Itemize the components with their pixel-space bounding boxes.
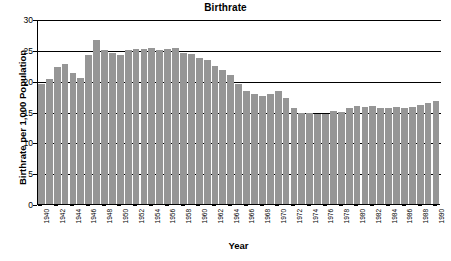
x-tick-label-1966: 1966: [248, 209, 255, 223]
bar: [70, 73, 77, 204]
birthrate-bar-chart: Birthrate 051015202530 Birthrate per 1,0…: [0, 0, 451, 261]
x-tick-label-1944: 1944: [75, 209, 82, 223]
x-tick-label-1978: 1978: [343, 209, 350, 223]
bar: [62, 64, 69, 204]
x-tick-mark-1956: [165, 205, 169, 206]
x-tick-label-1962: 1962: [217, 209, 224, 223]
bar: [54, 67, 61, 204]
x-tick-label-1990: 1990: [438, 209, 445, 223]
bar: [204, 60, 211, 204]
bar: [393, 107, 400, 204]
bar: [227, 75, 234, 205]
bar: [38, 84, 45, 204]
x-tick-mark-1970: [275, 205, 279, 206]
bar: [117, 55, 124, 204]
x-tick-mark-1944: [70, 205, 74, 206]
x-tick-mark-1990: [433, 205, 437, 206]
x-tick-label-1954: 1954: [154, 209, 161, 223]
bar: [346, 108, 353, 204]
bar: [401, 108, 408, 204]
bar: [259, 96, 266, 204]
bar: [172, 48, 179, 204]
x-axis-title: Year: [37, 240, 440, 251]
x-tick-mark-1962: [212, 205, 216, 206]
x-tick-mark-1950: [117, 205, 121, 206]
bar: [196, 58, 203, 204]
bar: [125, 50, 132, 204]
bar: [101, 50, 108, 204]
x-tick-mark-1980: [354, 205, 358, 206]
x-tick-mark-1988: [418, 205, 422, 206]
x-tick-mark-1960: [196, 205, 200, 206]
x-tick-label-1948: 1948: [106, 209, 113, 223]
x-tick-label-1984: 1984: [391, 209, 398, 223]
bar: [235, 84, 242, 204]
x-tick-mark-1948: [102, 205, 106, 206]
x-tick-mark-1940: [38, 205, 42, 206]
bar: [306, 113, 313, 204]
bar: [164, 49, 171, 204]
x-tick-mark-1976: [323, 205, 327, 206]
bar: [93, 40, 100, 204]
x-tick-label-1964: 1964: [233, 209, 240, 223]
x-tick-mark-1942: [54, 205, 58, 206]
x-tick-label-1952: 1952: [138, 209, 145, 223]
bar: [77, 78, 84, 204]
bar-series: [38, 19, 441, 204]
x-tick-mark-1966: [244, 205, 248, 206]
bar: [188, 54, 195, 204]
x-tick-label-1976: 1976: [327, 209, 334, 223]
bar: [369, 106, 376, 204]
x-tick-label-1968: 1968: [264, 209, 271, 223]
bar: [385, 108, 392, 204]
bar: [314, 114, 321, 204]
bar: [212, 66, 219, 204]
bar: [433, 101, 440, 204]
x-tick-label-1986: 1986: [406, 209, 413, 223]
x-axis-tick-labels: 1940194219441946194819501952195419561958…: [37, 205, 440, 239]
x-tick-mark-1984: [386, 205, 390, 206]
y-tick-label-30: 30: [7, 15, 33, 25]
plot-area: [37, 20, 440, 205]
y-axis-title: Birthrate per 1,000 Population: [17, 28, 28, 208]
x-tick-label-1980: 1980: [359, 209, 366, 223]
x-tick-label-1946: 1946: [90, 209, 97, 223]
bar: [338, 112, 345, 205]
bar: [243, 91, 250, 204]
x-tick-label-1972: 1972: [296, 209, 303, 223]
bar: [425, 103, 432, 204]
x-tick-mark-1982: [370, 205, 374, 206]
bar: [283, 98, 290, 204]
x-tick-label-1956: 1956: [169, 209, 176, 223]
x-tick-mark-1954: [149, 205, 153, 206]
bar: [322, 114, 329, 204]
bar: [330, 111, 337, 204]
bar: [141, 49, 148, 204]
x-tick-label-1958: 1958: [185, 209, 192, 223]
bar: [148, 48, 155, 204]
bar: [156, 50, 163, 204]
chart-title: Birthrate: [0, 2, 451, 13]
x-tick-label-1974: 1974: [312, 209, 319, 223]
x-tick-mark-1968: [260, 205, 264, 206]
bar: [362, 107, 369, 204]
x-tick-label-1942: 1942: [59, 209, 66, 223]
bar: [133, 49, 140, 204]
x-tick-label-1960: 1960: [201, 209, 208, 223]
bar: [275, 91, 282, 204]
x-tick-label-1988: 1988: [422, 209, 429, 223]
bar: [219, 70, 226, 204]
bar: [85, 55, 92, 204]
x-tick-mark-1974: [307, 205, 311, 206]
bar: [354, 106, 361, 204]
bar: [291, 108, 298, 204]
bar: [251, 94, 258, 204]
bar: [417, 105, 424, 204]
x-tick-label-1982: 1982: [375, 209, 382, 223]
x-tick-mark-1964: [228, 205, 232, 206]
x-tick-label-1940: 1940: [43, 209, 50, 223]
x-tick-label-1950: 1950: [122, 209, 129, 223]
x-tick-mark-1946: [86, 205, 90, 206]
bar: [267, 94, 274, 204]
x-tick-mark-1986: [402, 205, 406, 206]
